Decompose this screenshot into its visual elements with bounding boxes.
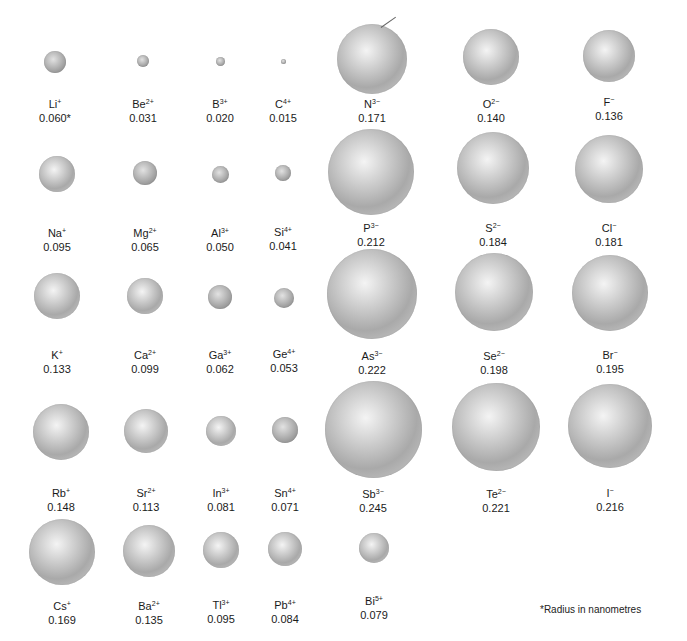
ion-symbol: Sb3− (333, 488, 413, 501)
ion-symbol: Cl− (569, 222, 649, 235)
ion-charge: − (612, 222, 616, 229)
ion-radius-value: 0.084 (245, 613, 325, 626)
ion-charge: 3+ (222, 599, 230, 606)
ion-radius-value: 0.181 (569, 236, 649, 249)
element-symbol: Ba (138, 600, 151, 612)
ion-sphere (568, 384, 652, 468)
ion-radius-value: 0.216 (570, 501, 650, 514)
ion-symbol: P3− (331, 222, 411, 235)
ion-charge: 2+ (149, 227, 157, 234)
ion-charge: 3− (374, 350, 382, 357)
element-symbol: Bi (365, 595, 375, 607)
ion-symbol: Br− (570, 349, 650, 362)
ion-charge: 4+ (288, 487, 296, 494)
ion-radius-value: 0.184 (453, 236, 533, 249)
ion-radius-value: 0.135 (109, 614, 189, 627)
ion-symbol: Sn4+ (245, 487, 325, 500)
element-symbol: Ca (134, 349, 148, 361)
ion-radius-value: 0.171 (332, 112, 412, 125)
ion-sphere (272, 417, 298, 443)
element-symbol: Sb (362, 488, 375, 500)
ion-sphere (127, 278, 163, 314)
ion-symbol: C4+ (243, 98, 323, 111)
ion-sphere (575, 135, 643, 203)
ion-symbol: Sr2+ (106, 487, 186, 500)
ionic-radii-diagram: Li+0.060*Be2+0.031B3+0.020C4+0.015N3−0.1… (0, 0, 687, 641)
element-symbol: Ge (273, 348, 288, 360)
ion-sphere (455, 253, 533, 331)
ion-symbol: Bi5+ (334, 595, 414, 608)
ion-charge: 4+ (287, 348, 295, 355)
ion-sphere (208, 285, 232, 309)
ion-radius-value: 0.041 (243, 240, 323, 253)
ion-radius-value: 0.095 (17, 241, 97, 254)
ion-sphere (34, 273, 80, 319)
element-symbol: Si (274, 226, 284, 238)
ion-sphere (212, 166, 229, 183)
ion-symbol: Ca2+ (105, 349, 185, 362)
ion-charge: 2+ (148, 349, 156, 356)
element-symbol: N (364, 98, 372, 110)
ion-symbol: F− (569, 96, 649, 109)
ion-sphere (133, 161, 157, 185)
ion-charge: 2+ (148, 487, 156, 494)
element-symbol: Te (486, 488, 498, 500)
ion-radius-value: 0.222 (332, 364, 412, 377)
ion-sphere (337, 24, 407, 94)
ion-radius-value: 0.245 (333, 502, 413, 515)
ion-sphere (124, 409, 168, 453)
ion-radius-value: 0.212 (331, 236, 411, 249)
ion-radius-value: 0.071 (245, 501, 325, 514)
ion-radius-value: 0.198 (454, 364, 534, 377)
ion-charge: 2+ (152, 600, 160, 607)
element-symbol: As (362, 350, 375, 362)
ion-charge: 3− (372, 98, 380, 105)
ion-radius-value: 0.195 (570, 363, 650, 376)
element-symbol: O (483, 98, 492, 110)
ion-radius-value: 0.169 (22, 614, 102, 627)
ion-radius-value: 0.133 (17, 363, 97, 376)
ion-sphere (359, 533, 389, 563)
ion-sphere (123, 525, 175, 577)
ion-charge: + (67, 600, 71, 607)
ion-charge: 2+ (146, 98, 154, 105)
element-symbol: Be (132, 98, 145, 110)
ion-sphere (39, 156, 75, 192)
ion-charge: 4+ (283, 98, 291, 105)
ion-charge: 3+ (223, 349, 231, 356)
ion-charge: 2− (491, 98, 499, 105)
ion-charge: + (62, 227, 66, 234)
ion-symbol: Mg2+ (105, 227, 185, 240)
ion-charge: 2− (497, 350, 505, 357)
ion-sphere (274, 288, 294, 308)
ion-radius-value: 0.221 (456, 502, 536, 515)
ion-sphere (137, 55, 149, 67)
element-symbol: Br (602, 349, 613, 361)
footnote: *Radius in nanometres (540, 604, 641, 616)
ion-charge: − (609, 487, 613, 494)
ion-radius-value: 0.136 (569, 110, 649, 123)
ion-symbol: Rb+ (21, 487, 101, 500)
element-symbol: Sr (137, 487, 148, 499)
element-symbol: Se (483, 350, 496, 362)
ion-radius-value: 0.140 (451, 112, 531, 125)
element-symbol: K (51, 349, 58, 361)
element-symbol: Cs (53, 600, 66, 612)
ion-radius-value: 0.113 (106, 501, 186, 514)
ion-charge: 3+ (220, 98, 228, 105)
ion-symbol: N3− (332, 98, 412, 111)
ion-sphere (275, 165, 291, 181)
ion-charge: 2− (493, 222, 501, 229)
ion-symbol: Si4+ (243, 226, 323, 239)
ion-charge: + (66, 487, 70, 494)
ion-radius-value: 0.148 (21, 501, 101, 514)
element-symbol: C (275, 98, 283, 110)
ion-sphere (281, 59, 286, 64)
element-symbol: Na (48, 227, 62, 239)
ion-symbol: Be2+ (103, 98, 183, 111)
ion-sphere (327, 249, 417, 339)
ion-sphere (29, 519, 95, 585)
ion-symbol: S2− (453, 222, 533, 235)
ion-radius-value: 0.060* (15, 112, 95, 125)
element-symbol: Tl (212, 599, 221, 611)
